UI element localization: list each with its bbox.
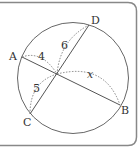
- circle: [18, 23, 129, 134]
- point-label-b: B: [121, 104, 129, 117]
- segment-label-pd: 6: [61, 39, 68, 52]
- segment-label-pa: 4: [38, 50, 45, 63]
- point-label-d: D: [91, 14, 100, 27]
- point-label-a: A: [8, 50, 18, 63]
- point-label-c: C: [23, 116, 31, 129]
- segment-label-pb: x: [87, 68, 94, 81]
- frame-border: [0, 3, 137, 146]
- segment-label-pc: 5: [33, 82, 40, 95]
- chord-cd: [30, 25, 89, 114]
- chord-diagram: A B C D 4 6 5 x: [0, 0, 139, 149]
- chord-ab: [22, 57, 120, 105]
